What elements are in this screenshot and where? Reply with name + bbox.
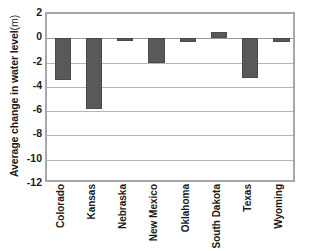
x-tick-colorado: Colorado [54,184,68,251]
x-tick-label: Oklahoma [181,184,191,232]
bar-chart-figure: Average change in water level(m) 20-2-4-… [0,0,310,251]
bar-south-dakota [211,32,227,38]
x-tick-wyoming: Wyoming [272,184,286,251]
y-tick-label: -8 [16,128,42,139]
bar-texas [242,38,258,78]
bar-nebraska [117,38,133,41]
x-tick-label: South Dakota [212,184,222,248]
bar-new-mexico [148,38,164,62]
y-tick-label: -4 [16,80,42,91]
x-tick-label: Kansas [87,184,97,220]
x-tick-kansas: Kansas [85,184,99,251]
x-axis-tick-labels: ColoradoKansasNebraskaNew MexicoOklahoma… [45,184,295,251]
x-tick-label: New Mexico [149,184,159,241]
x-tick-label: Texas [243,184,253,212]
bar-oklahoma [180,38,196,42]
plot-inner [47,14,293,180]
x-tick-label: Colorado [56,184,66,228]
bar-wyoming [273,38,289,42]
x-tick-new-mexico: New Mexico [147,184,161,251]
y-tick-label: 0 [16,31,42,42]
x-tick-label: Nebraska [118,184,128,229]
y-tick-label: 2 [16,7,42,18]
bar-colorado [55,38,71,79]
bar-kansas [86,38,102,108]
bars-layer [47,14,293,180]
x-tick-oklahoma: Oklahoma [179,184,193,251]
y-tick-label: -12 [16,177,42,188]
x-tick-label: Wyoming [274,184,284,229]
x-tick-south-dakota: South Dakota [210,184,224,251]
x-tick-texas: Texas [241,184,255,251]
y-axis-tick-labels: 20-2-4-6-8-10-12 [16,0,42,190]
plot-area [45,12,295,182]
x-tick-nebraska: Nebraska [116,184,130,251]
y-tick-label: -2 [16,55,42,66]
y-tick-label: -6 [16,104,42,115]
y-tick-label: -10 [16,152,42,163]
